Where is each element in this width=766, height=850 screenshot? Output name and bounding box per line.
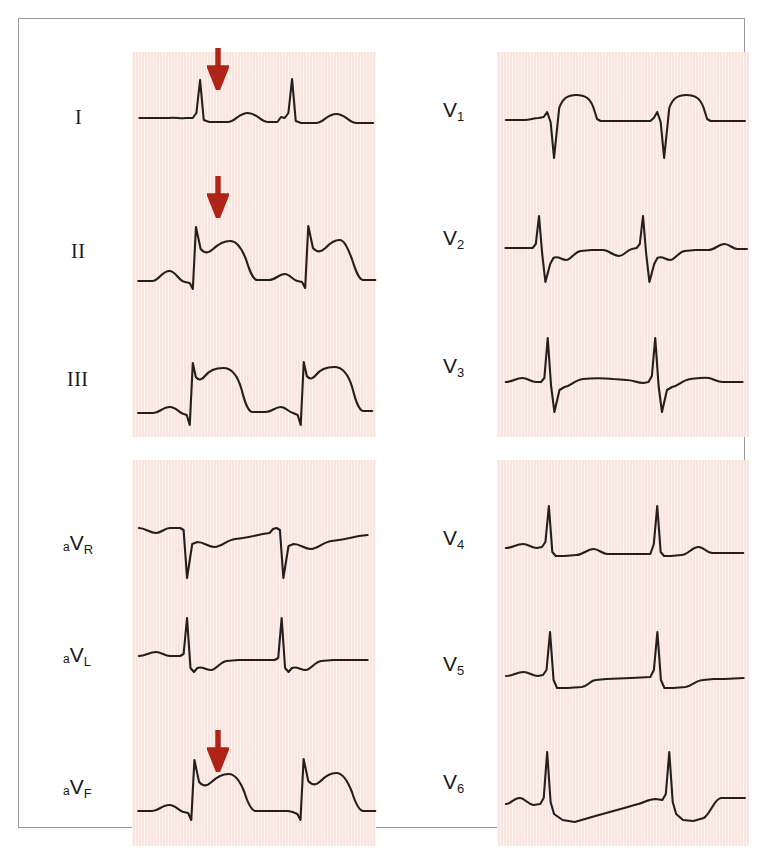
lead-label-V3: V3	[443, 355, 464, 376]
lead-label-V2: V2	[443, 227, 464, 248]
lead-label-V3-subscript: 3	[457, 365, 464, 380]
lead-label-V2-text: V	[443, 226, 457, 249]
lead-label-V6: V6	[443, 771, 464, 792]
lead-label-aVF: aVF	[63, 776, 92, 797]
lead-label-aVF-subscript: F	[84, 786, 92, 801]
figure-frame: I II III V1 V2	[18, 18, 745, 828]
lead-label-V4-subscript: 4	[457, 537, 464, 552]
lead-label-aVL-prefix: a	[63, 652, 70, 666]
lead-label-aVL-subscript: L	[84, 654, 91, 669]
trace-lead-I	[139, 79, 373, 123]
trace-lead-aVR	[139, 528, 368, 578]
trace-lead-V1	[506, 95, 745, 158]
lead-label-aVR-subscript: R	[84, 542, 93, 557]
trace-group-chest-upper	[497, 52, 749, 437]
trace-lead-V6	[506, 752, 745, 822]
lead-label-aVR: aVR	[63, 532, 93, 553]
st-elevation-arrow-lead-III	[207, 174, 229, 218]
lead-label-III: III	[67, 369, 88, 389]
lead-label-V5-subscript: 5	[457, 663, 464, 678]
trace-group-chest-lower	[497, 460, 749, 846]
trace-lead-V3	[506, 338, 743, 412]
trace-lead-aVF	[138, 759, 375, 820]
lead-label-III-text: III	[67, 368, 88, 390]
st-elevation-arrow-lead-II	[207, 46, 229, 90]
lead-label-aVR-text: V	[70, 531, 84, 554]
lead-label-aVR-prefix: a	[63, 540, 70, 554]
ecg-panel-chest-lower	[497, 460, 749, 846]
trace-group-limb-augmented	[132, 460, 376, 846]
lead-label-aVF-prefix: a	[63, 784, 70, 798]
lead-label-aVF-text: V	[70, 775, 84, 798]
lead-label-V2-subscript: 2	[457, 237, 464, 252]
lead-label-V1-text: V	[443, 98, 457, 121]
lead-label-V5: V5	[443, 653, 464, 674]
lead-label-II-text: II	[71, 240, 85, 262]
lead-label-I-text: I	[75, 106, 82, 128]
trace-lead-V5	[506, 632, 744, 688]
lead-label-V5-text: V	[443, 652, 457, 675]
lead-label-V4-text: V	[443, 526, 457, 549]
lead-label-V6-subscript: 6	[457, 781, 464, 796]
lead-label-V1: V1	[443, 99, 464, 120]
ecg-figure: I II III V1 V2	[0, 0, 766, 850]
trace-group-limb-standard	[132, 52, 376, 437]
ecg-panel-limb-augmented	[132, 460, 376, 846]
trace-lead-V2	[505, 216, 747, 282]
lead-label-V4: V4	[443, 527, 464, 548]
st-elevation-arrow-lead-aVF	[207, 728, 229, 772]
trace-lead-II	[138, 226, 375, 289]
lead-label-V6-text: V	[443, 770, 457, 793]
lead-label-I: I	[75, 107, 82, 127]
lead-label-aVL-text: V	[70, 643, 84, 666]
trace-lead-V4	[506, 506, 743, 556]
lead-label-V3-text: V	[443, 354, 457, 377]
ecg-panel-limb-standard	[132, 52, 376, 437]
trace-lead-III	[138, 362, 372, 425]
trace-lead-aVL	[139, 618, 368, 672]
lead-label-V1-subscript: 1	[457, 109, 464, 124]
ecg-panel-chest-upper	[497, 52, 749, 437]
lead-label-aVL: aVL	[63, 644, 91, 665]
lead-label-II: II	[71, 241, 85, 261]
